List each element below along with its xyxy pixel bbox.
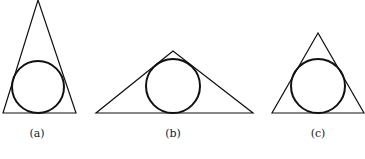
figure-a bbox=[3, 0, 76, 113]
figure-label-c: (c) bbox=[311, 127, 326, 140]
figure-label-b: (b) bbox=[165, 127, 181, 140]
figure-b bbox=[96, 51, 253, 113]
incircle-c bbox=[291, 59, 345, 113]
incircle-b bbox=[146, 59, 200, 113]
triangle-b bbox=[96, 51, 253, 113]
incircle-a bbox=[12, 61, 64, 113]
figure-label-a: (a) bbox=[29, 127, 44, 140]
figure-c bbox=[272, 33, 364, 113]
triangle-c bbox=[272, 33, 364, 113]
